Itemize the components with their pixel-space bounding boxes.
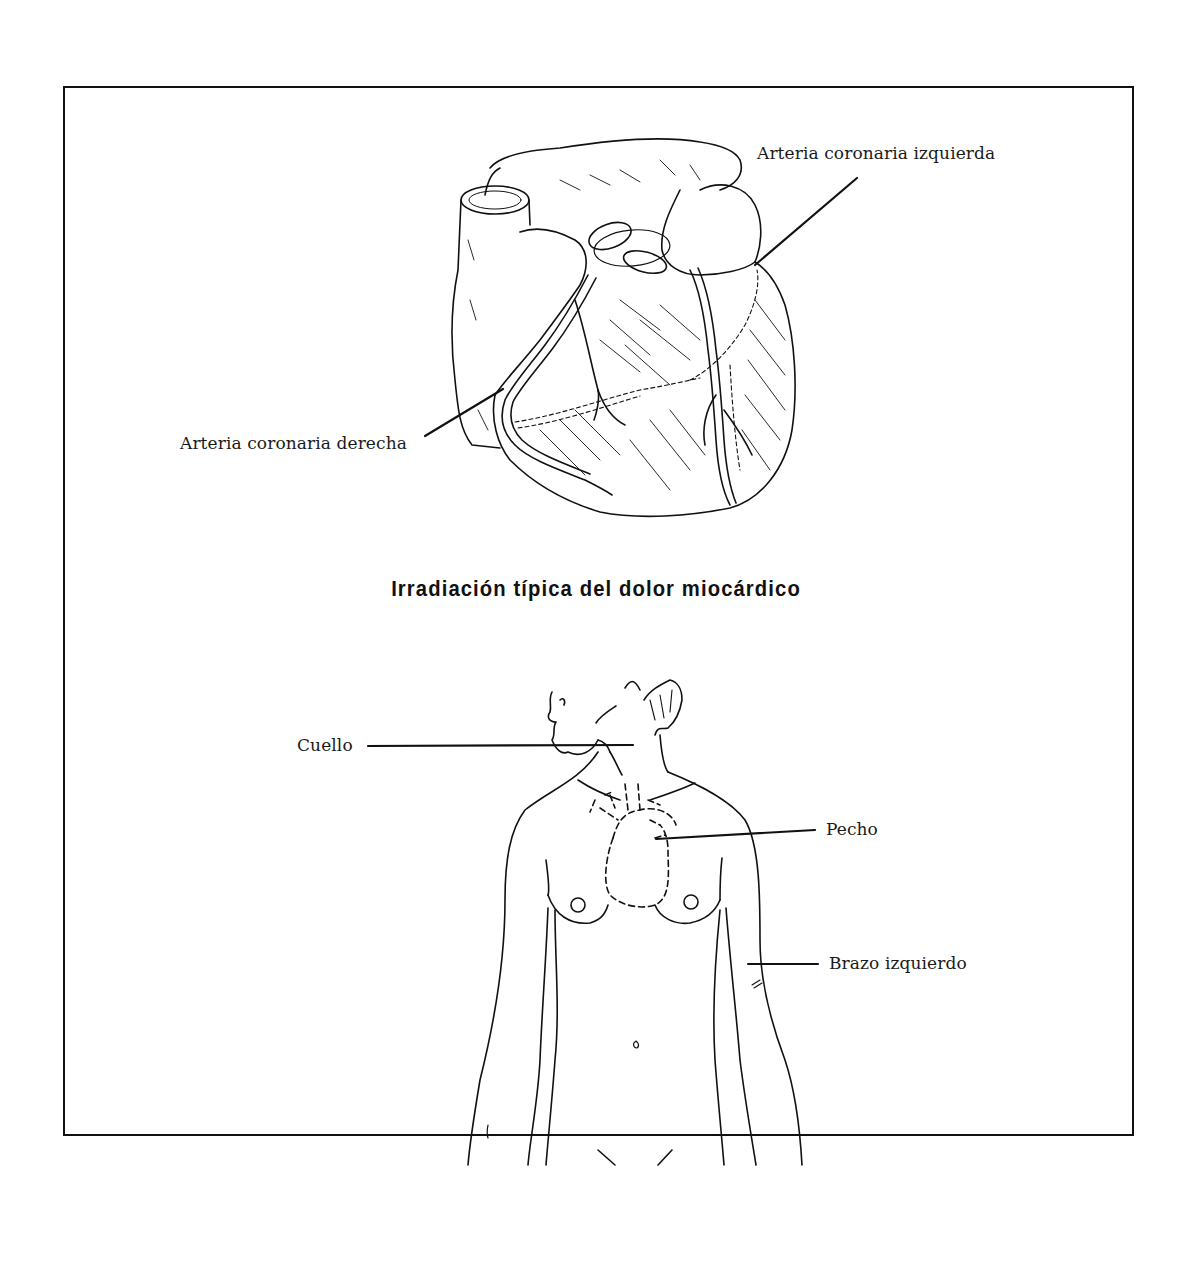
leader-line-neck	[368, 745, 633, 746]
body-illustration	[468, 680, 802, 1165]
illustration-layer	[0, 0, 1192, 1285]
label-right-coronary-artery: Arteria coronaria derecha	[180, 433, 407, 453]
label-chest: Pecho	[826, 819, 878, 839]
heart-illustration	[452, 139, 795, 517]
label-left-arm: Brazo izquierdo	[829, 953, 967, 973]
label-left-coronary-artery: Arteria coronaria izquierda	[757, 143, 995, 163]
leader-line-left-coronary	[755, 178, 857, 265]
label-neck: Cuello	[297, 735, 353, 755]
leader-line-chest	[656, 830, 815, 839]
figure-title: Irradiación típica del dolor miocárdico	[48, 576, 1145, 602]
